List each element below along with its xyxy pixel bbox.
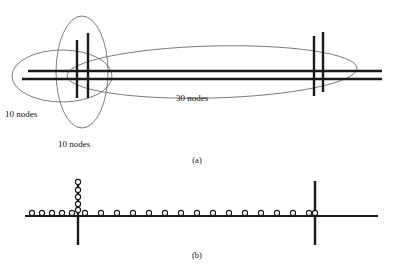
bus-node-circle bbox=[210, 210, 215, 215]
bus-node-circle bbox=[258, 210, 263, 215]
stack-node-circle bbox=[75, 207, 80, 212]
panel-a-caption: (a) bbox=[192, 155, 202, 165]
bus-node-circle bbox=[39, 210, 44, 215]
bus-node-circle bbox=[312, 210, 317, 215]
panel-b-caption: (b) bbox=[192, 250, 202, 260]
stack-node-circle bbox=[75, 187, 80, 192]
bus-node-circle bbox=[162, 210, 167, 215]
bus-node-circle bbox=[226, 210, 231, 215]
stack-node-circle bbox=[75, 179, 80, 184]
bus-node-circle bbox=[290, 210, 295, 215]
bus-node-circle bbox=[146, 210, 151, 215]
network-topology-figure: 10 nodes10 nodes30 nodes (a) (b) bbox=[0, 0, 401, 273]
bus-node-circle bbox=[59, 210, 64, 215]
bus-node-circle bbox=[114, 210, 119, 215]
bus-node-circle bbox=[130, 210, 135, 215]
vertical-cluster-label: 10 nodes bbox=[58, 139, 91, 149]
bus-node-circle bbox=[306, 210, 311, 215]
bus-node-circle bbox=[98, 210, 103, 215]
left-cluster-label: 10 nodes bbox=[5, 109, 38, 119]
bus-node-circle bbox=[274, 210, 279, 215]
bus-node-circle bbox=[178, 210, 183, 215]
bus-node-circle bbox=[49, 210, 54, 215]
bus-node-circle bbox=[29, 210, 34, 215]
figure-root: 10 nodes10 nodes30 nodes (a) (b) bbox=[0, 0, 401, 273]
bus-node-circle bbox=[242, 210, 247, 215]
stack-node-circle bbox=[75, 194, 80, 199]
bus-node-circle bbox=[194, 210, 199, 215]
bus-node-circle bbox=[69, 210, 74, 215]
stack-node-circle bbox=[75, 201, 80, 206]
backbone-label: 30 nodes bbox=[176, 93, 209, 103]
bus-node-circle bbox=[82, 210, 87, 215]
